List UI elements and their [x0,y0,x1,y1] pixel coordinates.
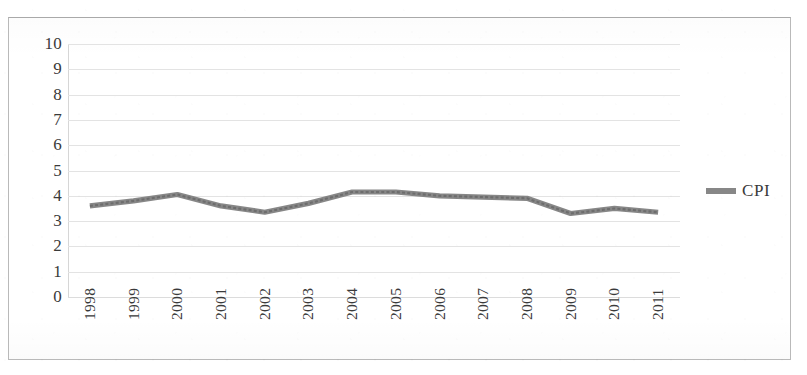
cpi-line-chart: 109876543210 199819992000200120022003200… [0,0,807,375]
x-tick-label-2007: 2007 [473,300,493,320]
y-tick-label-10: 10 [28,35,62,52]
y-tick-label-2: 2 [28,237,62,254]
gridline-0 [68,297,680,298]
x-tick-label-2003: 2003 [298,300,318,320]
y-tick-label-1: 1 [28,263,62,280]
x-tick-label-2005: 2005 [386,300,406,320]
legend-swatch-cpi [706,188,736,194]
x-axis-tick-labels: 1998199920002001200220032004200520062007… [68,300,680,360]
series-cpi [68,44,680,297]
y-axis-tick-labels: 109876543210 [22,44,62,297]
x-tick-label-1998: 1998 [80,300,100,320]
x-tick-label-2009: 2009 [561,300,581,320]
x-tick-label-2002: 2002 [255,300,275,320]
y-tick-label-3: 3 [28,212,62,229]
x-tick-label-2008: 2008 [517,300,537,320]
x-tick-label-2001: 2001 [211,300,231,320]
x-tick-label-2006: 2006 [430,300,450,320]
y-tick-label-9: 9 [28,60,62,77]
chart-legend: CPI [706,182,770,199]
x-tick-label-2010: 2010 [604,300,624,320]
y-tick-label-8: 8 [28,86,62,103]
x-tick-label-2011: 2011 [648,300,668,320]
x-tick-label-2000: 2000 [167,300,187,320]
x-tick-label-1999: 1999 [124,300,144,320]
y-tick-label-0: 0 [28,288,62,305]
y-tick-label-7: 7 [28,111,62,128]
plot-region [68,44,680,297]
x-tick-label-2004: 2004 [342,300,362,320]
legend-label-cpi: CPI [742,182,770,199]
y-tick-label-5: 5 [28,162,62,179]
y-tick-label-6: 6 [28,136,62,153]
series-cpi-line-texture [90,192,658,214]
y-tick-label-4: 4 [28,187,62,204]
